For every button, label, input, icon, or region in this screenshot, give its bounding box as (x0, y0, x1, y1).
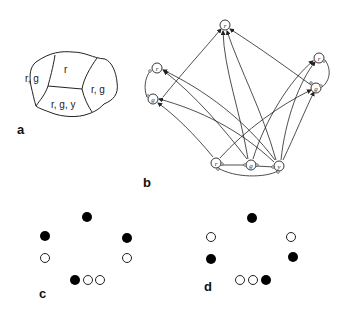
graph-node-bottom-y: y (274, 161, 284, 171)
dot-filled (82, 212, 92, 222)
dot-open (96, 276, 105, 285)
region-label-top: r (64, 64, 68, 75)
graph-node-left-r: r (152, 63, 162, 73)
dot-open (41, 254, 50, 263)
node-label: r (156, 65, 159, 73)
panel-label-c: c (39, 286, 46, 301)
figure-canvas: r, g r r, g r, g, y a (0, 0, 348, 311)
node-label: g (249, 162, 253, 170)
graph-node-right-g: g (311, 83, 321, 93)
dot-filled (261, 275, 271, 285)
dot-filled (70, 275, 80, 285)
dot-filled (288, 252, 298, 262)
region-label-right: r, g (91, 84, 105, 95)
dot-filled (40, 231, 50, 241)
graph-node-top-r: r (220, 20, 230, 30)
panel-label-a: a (17, 122, 25, 137)
dot-open (287, 233, 296, 242)
panel-a-map: r, g r r, g r, g, y a (17, 52, 117, 137)
region-label-bottom: r, g, y (51, 99, 75, 110)
graph-node-bottom-r: r (211, 158, 221, 168)
panel-label-b: b (143, 175, 151, 190)
node-label: r (224, 22, 227, 30)
dot-open (236, 276, 245, 285)
dot-open (123, 254, 132, 263)
panel-b-graph: r r g r g r g y (143, 20, 329, 190)
graph-edges (145, 29, 329, 176)
node-label: g (151, 96, 155, 104)
dot-open (84, 276, 93, 285)
node-label: g (314, 85, 318, 93)
panel-c-dots: c (39, 212, 132, 301)
panel-d-dots: d (204, 213, 298, 294)
node-label: r (318, 55, 321, 63)
graph-ports (147, 60, 326, 174)
dot-filled (247, 213, 257, 223)
dot-filled (206, 254, 216, 264)
dot-filled (122, 233, 132, 243)
map-border-middle (48, 86, 82, 89)
node-label: r (215, 160, 218, 168)
graph-node-bottom-g: g (246, 160, 256, 170)
panel-label-d: d (204, 279, 212, 294)
region-label-left: r, g (25, 73, 39, 84)
dot-open (249, 276, 258, 285)
dot-open (207, 233, 216, 242)
